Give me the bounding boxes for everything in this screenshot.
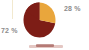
data-label-72-percent: 72 % — [1, 26, 18, 35]
pie-chart-svg — [23, 2, 56, 38]
axis-rule-decoration — [12, 0, 13, 19]
data-label-28-percent: 28 % — [64, 4, 81, 13]
pie-slice-28[interactable] — [40, 3, 56, 24]
pie-chart-figure: 28 % 72 % — [0, 0, 89, 50]
legend-swatch-core — [36, 44, 54, 47]
pie-chart — [23, 2, 56, 38]
